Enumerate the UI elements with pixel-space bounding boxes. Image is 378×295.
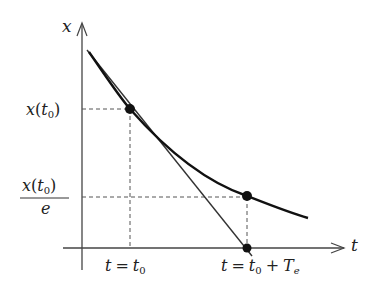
svg-text:x(t0): x(t0) [22, 176, 56, 196]
tangent-line [87, 50, 252, 256]
label-t-equals-t0: t=t0 [105, 256, 146, 276]
dashed-guides [82, 109, 247, 248]
y-axis-label: x [62, 16, 72, 36]
decay-diagram: x t x(t0) x(t0) e t=t0 t=t0+Te [0, 0, 378, 295]
t-axis-label: t [351, 235, 358, 255]
svg-text:e: e [41, 199, 50, 218]
point-t0-plus-te [243, 244, 252, 253]
axes [63, 23, 344, 270]
label-t-equals-t0-plus-te: t=t0+Te [221, 256, 300, 276]
label-x-t0: x(t0) [26, 100, 60, 120]
point-x-t0 [125, 104, 135, 114]
decay-curve [89, 52, 308, 218]
point-x-t0-over-e [242, 191, 252, 201]
label-x-t0-over-e: x(t0) e [20, 176, 69, 218]
